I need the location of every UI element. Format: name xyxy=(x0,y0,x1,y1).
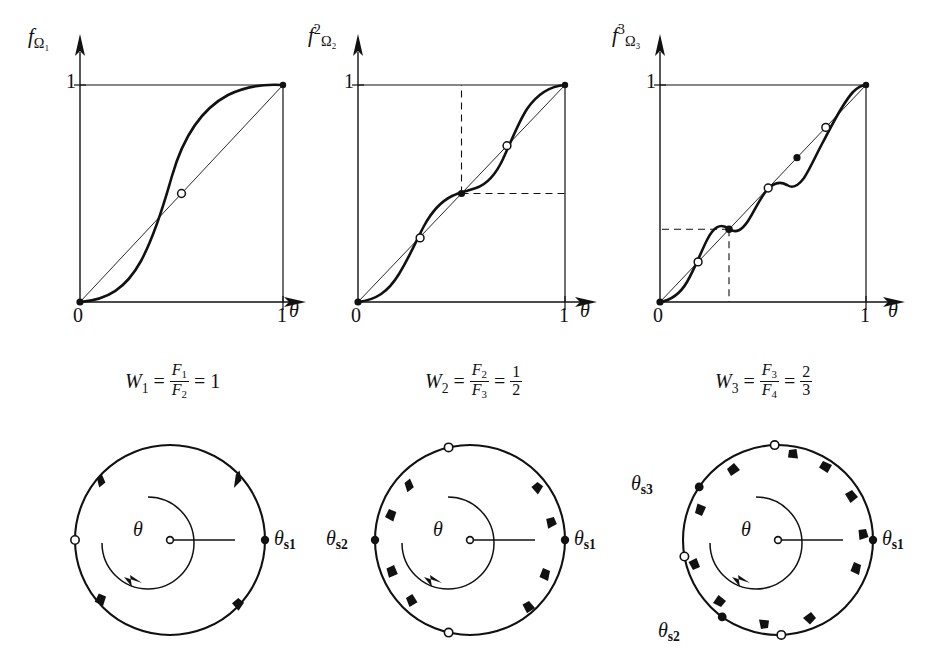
map-plot-1 xyxy=(0,0,310,345)
eq3-num-sub: 3 xyxy=(772,368,777,380)
eq1-denominator: F2 xyxy=(170,381,189,401)
eq2-result-den: 2 xyxy=(510,381,522,399)
eq1-w-sub: 1 xyxy=(142,381,149,396)
theta-s1-label-circle-1: θs1 xyxy=(274,528,296,552)
y-axis-label-1: fΩ₁ xyxy=(28,26,49,50)
theta-s2-sub-3: s2 xyxy=(668,629,680,644)
x-tick-label-3-one: 1 xyxy=(860,305,870,325)
theta-glyph-2: θ xyxy=(433,518,443,540)
rotation-arrowhead-1 xyxy=(124,575,142,587)
eq3-result-den: 3 xyxy=(800,381,812,399)
phase-unstable-point-3b xyxy=(680,552,688,560)
x-axis-label-1: θ xyxy=(289,300,299,320)
y-axis-label-sub-3: Ω₃ xyxy=(625,33,641,49)
y-axis-label-sub-2: Ω₂ xyxy=(321,33,337,49)
fixed-point-unstable-2b xyxy=(503,142,511,150)
eq3-result-fraction: 2 3 xyxy=(800,364,812,399)
eq2-w: W xyxy=(425,370,442,392)
theta-s2-label-circle-2: θs2 xyxy=(326,528,348,552)
theta-s2-label-circle-3: θs2 xyxy=(658,620,680,644)
winding-equation-2: W2 = F2 F3 = 1 2 xyxy=(425,362,522,401)
eq3-w-sub: 3 xyxy=(732,381,739,396)
phase-circle-panel-2: θ θs2 θs1 xyxy=(320,425,620,662)
flow-arrowheads-2 xyxy=(385,479,557,614)
x-tick-label-3-zero: 0 xyxy=(653,305,663,325)
theta-angle-label-1: θ xyxy=(133,519,143,539)
x-tick-label-2-one: 1 xyxy=(559,305,569,325)
eq1-result: 1 xyxy=(210,370,220,392)
x-tick-label-1-one: 1 xyxy=(277,305,287,325)
rotation-arrowhead-2 xyxy=(424,575,442,587)
phase-unstable-point-1 xyxy=(71,536,79,544)
y-tick-label-3: 1 xyxy=(646,71,656,91)
y-axis-label-sup-2: 2 xyxy=(314,21,321,37)
y-axis-label-2: f2Ω₂ xyxy=(308,22,337,49)
eq1-equals-a: = xyxy=(153,370,164,392)
eq3-equals-b: = xyxy=(784,370,795,392)
figure-root: fΩ₁ 1 0 1 θ f2Ω xyxy=(0,0,933,662)
eq1-fraction: F1 F2 xyxy=(170,362,189,401)
x-tick-label-1-zero: 0 xyxy=(73,305,83,325)
phase-unstable-point-2a xyxy=(444,443,452,451)
theta-s1-glyph-1: θ xyxy=(274,527,284,549)
phase-stable-point-3b xyxy=(695,483,704,492)
phase-unstable-point-3a xyxy=(771,441,779,449)
eq3-result-num: 2 xyxy=(800,364,812,381)
y-axis-label-sup-3: 3 xyxy=(618,21,625,37)
fixed-point-stable-3d xyxy=(863,82,869,88)
theta-s1-sub-2: s1 xyxy=(584,537,596,552)
circle-center-2 xyxy=(467,537,474,544)
y-axis-label-3: f3Ω₃ xyxy=(612,22,641,49)
map-panel-2: f2Ω₂ 1 0 1 θ xyxy=(300,0,615,345)
eq2-den-sub: 3 xyxy=(482,388,487,400)
rotation-arrowhead-3 xyxy=(732,575,750,587)
eq2-w-sub: 2 xyxy=(442,381,449,396)
theta-s2-glyph-3: θ xyxy=(658,619,668,641)
fixed-point-stable-1b xyxy=(280,82,286,88)
phase-stable-point-3c xyxy=(718,613,727,622)
eq3-denominator: F4 xyxy=(760,381,779,401)
x-axis-label-2: θ xyxy=(580,300,590,320)
phase-circle-panel-3: θ θs3 θs1 θs2 xyxy=(623,425,933,662)
theta-s1-glyph-3: θ xyxy=(882,527,892,549)
theta-s1-sub-3: s1 xyxy=(892,537,904,552)
eq2-result-num: 1 xyxy=(510,364,522,381)
eq2-numerator: F2 xyxy=(470,362,489,381)
eq1-den-sub: 2 xyxy=(182,388,187,400)
phase-unstable-point-3c xyxy=(777,631,785,639)
fixed-point-unstable-2a xyxy=(416,234,424,242)
winding-equation-3: W3 = F3 F4 = 2 3 xyxy=(715,362,812,401)
theta-angle-label-2: θ xyxy=(433,519,443,539)
theta-glyph-3: θ xyxy=(741,518,751,540)
phase-stable-point-3a xyxy=(869,536,877,544)
theta-s3-sub-3: s3 xyxy=(641,482,653,497)
eq1-num-f: F xyxy=(172,361,182,378)
theta-glyph-1: θ xyxy=(133,518,143,540)
eq2-result-fraction: 1 2 xyxy=(510,364,522,399)
theta-s2-sub-2: s2 xyxy=(336,537,348,552)
map-panel-1: fΩ₁ 1 0 1 θ xyxy=(0,0,310,345)
eq3-numerator: F3 xyxy=(760,362,779,381)
phase-circle-panel-1: θ θs1 xyxy=(20,425,320,662)
rotation-arc-1 xyxy=(102,497,194,589)
eq2-num-sub: 2 xyxy=(482,368,487,380)
map-panel-3: f3Ω₃ 1 0 1 θ xyxy=(610,0,933,345)
eq1-num-sub: 1 xyxy=(182,368,187,380)
fixed-point-unstable-3b xyxy=(764,184,772,192)
x-axis-label-3: θ xyxy=(888,300,898,320)
theta-s2-glyph-2: θ xyxy=(326,527,336,549)
phase-stable-point-2a xyxy=(561,536,569,544)
fixed-point-stable-3b xyxy=(725,226,733,234)
map-plot-2 xyxy=(300,0,615,345)
y-tick-label-1: 1 xyxy=(66,71,76,91)
theta-s1-label-circle-3: θs1 xyxy=(882,528,904,552)
eq2-fraction: F2 F3 xyxy=(470,362,489,401)
rotation-arc-2 xyxy=(402,497,494,589)
theta-s1-sub-1: s1 xyxy=(284,537,296,552)
eq1-numerator: F1 xyxy=(170,362,189,381)
fixed-point-stable-2b xyxy=(458,190,465,197)
eq1-den-f: F xyxy=(172,381,182,398)
phase-stable-point-2b xyxy=(371,536,379,544)
eq3-w: W xyxy=(715,370,732,392)
eq2-den-f: F xyxy=(472,381,482,398)
